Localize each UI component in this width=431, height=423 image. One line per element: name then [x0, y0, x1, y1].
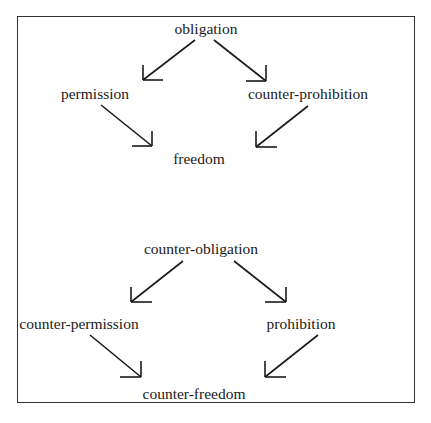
arrow-counter-prohibition-freedom: [256, 106, 308, 147]
lattice-diagrams: obligation permission counter-prohibitio…: [0, 0, 431, 423]
arrow-counter-obligation-prohibition: [234, 261, 286, 302]
node-counter-obligation: counter-obligation: [144, 240, 258, 257]
node-permission: permission: [61, 85, 129, 102]
arrow-obligation-permission: [143, 40, 195, 80]
arrow-counter-obligation-counter-permission: [131, 261, 183, 302]
arrow-counter-permission-counter-freedom: [90, 335, 141, 377]
arrow-prohibition-counter-freedom: [265, 335, 318, 377]
arrow-permission-freedom: [101, 105, 152, 146]
node-counter-permission: counter-permission: [19, 315, 139, 332]
diagram-canvas: obligation permission counter-prohibitio…: [0, 0, 431, 423]
node-counter-prohibition: counter-prohibition: [248, 85, 368, 102]
node-obligation: obligation: [175, 20, 238, 37]
node-prohibition: prohibition: [267, 315, 336, 332]
arrow-obligation-counter-prohibition: [214, 40, 266, 81]
node-counter-freedom: counter-freedom: [143, 385, 246, 402]
node-freedom: freedom: [173, 150, 225, 167]
